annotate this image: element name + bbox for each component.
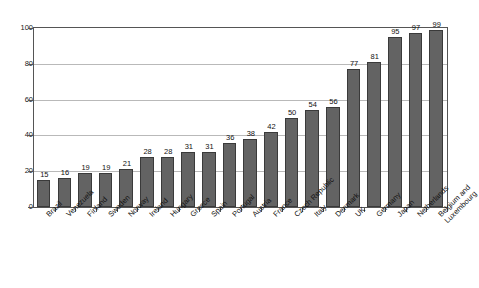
bar[interactable]	[326, 107, 340, 207]
bar[interactable]	[409, 33, 423, 207]
bar-group[interactable]: 28	[158, 28, 179, 207]
bar-group[interactable]: 95	[385, 28, 406, 207]
bar-group[interactable]: 15	[34, 28, 55, 207]
bar-group[interactable]: 50	[282, 28, 303, 207]
y-axis: 020406080100	[0, 27, 33, 208]
bar-group[interactable]: 28	[137, 28, 158, 207]
bar-group[interactable]: 38	[241, 28, 262, 207]
bar[interactable]	[429, 30, 443, 207]
bar[interactable]	[223, 143, 237, 207]
bar-group[interactable]: 97	[406, 28, 427, 207]
bar[interactable]	[347, 69, 361, 207]
bar-group[interactable]: 31	[199, 28, 220, 207]
bar-group[interactable]: 81	[364, 28, 385, 207]
bar-group[interactable]: 36	[220, 28, 241, 207]
bar-group[interactable]: 19	[96, 28, 117, 207]
bar-group[interactable]: 16	[55, 28, 76, 207]
bar-value-label: 99	[416, 20, 457, 29]
bar-group[interactable]: 54	[302, 28, 323, 207]
bar[interactable]	[37, 180, 51, 207]
bars-layer: 1516191921282831313638425054567781959799	[34, 28, 447, 207]
bar[interactable]	[388, 37, 402, 207]
bar-group[interactable]: 31	[179, 28, 200, 207]
bar-group[interactable]: 19	[75, 28, 96, 207]
bar[interactable]	[285, 118, 299, 208]
bar-group[interactable]: 99	[426, 28, 447, 207]
bar[interactable]	[367, 62, 381, 207]
bar-group[interactable]: 21	[117, 28, 138, 207]
bar-group[interactable]: 42	[261, 28, 282, 207]
